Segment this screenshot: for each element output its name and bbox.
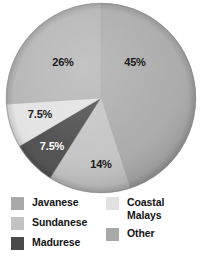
legend-swatch-javanese — [11, 197, 24, 210]
legend-label-sundanese: Sundanese — [32, 216, 87, 229]
legend-item-other: Other — [106, 227, 201, 242]
legend-label-javanese: Javanese — [32, 196, 79, 209]
legend-item-sundanese: Sundanese — [11, 216, 106, 231]
pie-chart-plot-area: 45% 14% 7.5% 7.5% 26% — [0, 0, 203, 196]
legend-item-javanese: Javanese — [11, 196, 106, 211]
chart-legend: Javanese Sundanese Madurese Coastal Mala… — [0, 196, 203, 271]
legend-item-coastal-malays: Coastal Malays — [106, 196, 201, 222]
legend-column-left: Javanese Sundanese Madurese — [11, 196, 106, 256]
legend-swatch-sundanese — [11, 217, 24, 230]
pie-chart-figure: 45% 14% 7.5% 7.5% 26% Javanese Sundanese… — [0, 0, 203, 271]
legend-item-madurese: Madurese — [11, 236, 106, 251]
legend-swatch-madurese — [11, 237, 24, 250]
legend-label-madurese: Madurese — [32, 236, 80, 249]
legend-label-coastal-malays-line1: Coastal — [127, 196, 164, 208]
slice-label-other: 7.5% — [28, 108, 52, 120]
legend-label-other: Other — [127, 227, 155, 240]
legend-swatch-coastal-malays — [106, 197, 119, 210]
slice-label-madurese: 7.5% — [40, 140, 64, 152]
slice-label-coastal-malays: 14% — [90, 158, 111, 170]
legend-label-coastal-malays: Coastal Malays — [127, 196, 164, 222]
legend-label-coastal-malays-line2: Malays — [127, 209, 164, 222]
slice-label-javanese: 45% — [124, 56, 145, 68]
slice-label-sundanese: 26% — [52, 56, 73, 68]
legend-swatch-other — [106, 228, 119, 241]
legend-column-right: Coastal Malays Other — [106, 196, 201, 247]
